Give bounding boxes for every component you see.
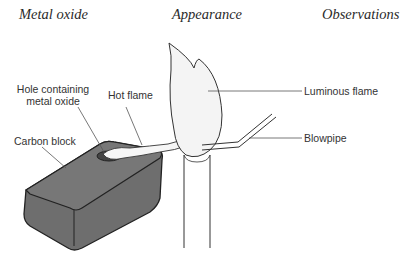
label-carbon-block: Carbon block xyxy=(14,135,76,147)
label-blowpipe: Blowpipe xyxy=(304,132,347,144)
label-hole: Hole containing metal oxide xyxy=(12,83,94,107)
label-hot-flame: Hot flame xyxy=(108,89,153,101)
luminous-flame xyxy=(169,43,222,157)
candle xyxy=(184,155,210,248)
label-luminous-flame: Luminous flame xyxy=(304,85,378,97)
carbon-block xyxy=(24,141,163,250)
